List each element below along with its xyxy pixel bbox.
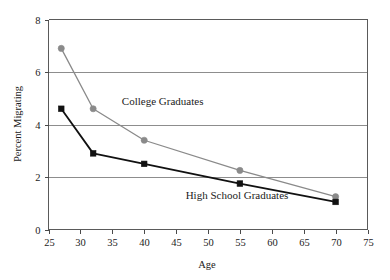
x-tick-label-45: 45 (171, 237, 182, 248)
x-tick-label-40: 40 (139, 237, 150, 248)
x-tick-label-75: 75 (363, 237, 374, 248)
series-annotation-high-school-graduates: High School Graduates (186, 189, 289, 201)
x-tick-label-25: 25 (44, 237, 55, 248)
marker-high-school-graduates-age-32 (90, 151, 96, 157)
y-tick-label-8: 8 (35, 15, 40, 26)
x-tick-label-35: 35 (107, 237, 118, 248)
y-tick-label-6: 6 (35, 67, 40, 78)
y-tick-label-4: 4 (35, 120, 41, 131)
marker-high-school-graduates-age-40 (141, 161, 147, 167)
x-tick-label-70: 70 (331, 237, 342, 248)
x-axis-title: Age (198, 259, 216, 270)
marker-high-school-graduates-age-55 (237, 181, 243, 187)
marker-college-graduates-age-55 (237, 167, 243, 173)
x-tick-label-50: 50 (203, 237, 214, 248)
y-tick-label-2: 2 (35, 172, 40, 183)
x-tick-label-30: 30 (75, 237, 86, 248)
marker-college-graduates-age-32 (90, 106, 96, 112)
marker-high-school-graduates-age-70 (333, 199, 339, 205)
x-tick-label-55: 55 (235, 237, 246, 248)
y-tick-label-0: 0 (35, 225, 40, 236)
marker-college-graduates-age-27 (58, 45, 64, 51)
marker-college-graduates-age-40 (141, 137, 147, 143)
x-tick-label-65: 65 (299, 237, 310, 248)
marker-high-school-graduates-age-27 (58, 106, 64, 112)
percent-migrating-line-chart: 2530354045505560657075 02468 College Gra… (0, 0, 390, 280)
y-axis-title: Percent Migrating (12, 85, 23, 162)
x-tick-label-60: 60 (267, 237, 278, 248)
series-annotation-college-graduates: College Graduates (122, 95, 204, 107)
chart-figure: 2530354045505560657075 02468 College Gra… (0, 0, 390, 280)
